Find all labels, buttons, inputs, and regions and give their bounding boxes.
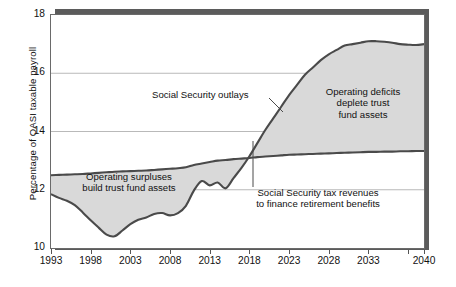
x-tick-mark-1993 [51,249,52,254]
plot-area [50,14,425,249]
x-tick-label-2033: 2033 [346,255,390,266]
annotation-operating-surpluses: Operating surpluses build trust fund ass… [66,171,192,194]
x-tick-label-2013: 2013 [188,255,232,266]
x-tick-label-1998: 1998 [69,255,113,266]
x-tick-label-2018: 2018 [227,255,271,266]
leader-line-outlays [269,98,283,112]
x-tick-label-1993: 1993 [29,255,73,266]
x-tick-label-2008: 2008 [148,255,192,266]
annotation-operating-deficits: Operating deficits deplete trust fund as… [310,86,416,120]
annotation-tax-revenues: Social Security tax revenues to finance … [238,187,398,210]
chart-container: Percentage of OASI taxable payroll 10121… [0,0,456,287]
x-tick-label-2003: 2003 [108,255,152,266]
x-tick-label-2023: 2023 [267,255,311,266]
x-tick-label-2028: 2028 [307,255,351,266]
annotation-social-security-outlays: Social Security outlays [152,89,249,100]
x-tick-label-2040: 2040 [402,255,446,266]
plot-svg [51,15,424,248]
